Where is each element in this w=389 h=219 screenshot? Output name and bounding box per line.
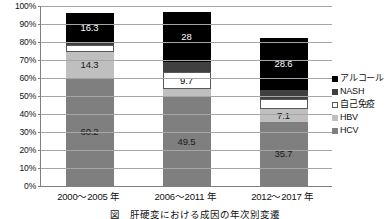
y-tick-label: 10% [20, 164, 36, 173]
legend-item[interactable]: NASH [332, 85, 389, 98]
gridline [41, 24, 332, 25]
bar-segment[interactable]: 14.3 [66, 52, 114, 78]
figure-caption: 図 肝硬変における成因の年次別変遷 [0, 209, 389, 219]
y-tick-mark [38, 150, 41, 151]
legend-label: 自己免疫 [340, 100, 375, 109]
x-axis-label: 2012〜2017 年 [228, 190, 338, 204]
legend-item[interactable]: HBV [332, 111, 389, 124]
chart-legend: アルコールNASH自己免疫HBVHCV [332, 72, 389, 137]
y-tick-mark [38, 24, 41, 25]
y-tick-label: 20% [20, 146, 36, 155]
legend-item[interactable]: 自己免疫 [332, 98, 389, 111]
legend-label: HBV [340, 113, 358, 122]
gridline [41, 78, 332, 79]
y-tick-label: 30% [20, 128, 36, 137]
legend-label: アルコール [340, 74, 384, 83]
plot-area: 60.214.33.61.516.349.54.39.75.42835.77.1… [40, 6, 331, 186]
gridline [41, 150, 332, 151]
y-tick-mark [38, 96, 41, 97]
bar-segment[interactable]: 5.4 [260, 90, 308, 100]
bar-segment[interactable]: 5.4 [163, 62, 211, 72]
legend-swatch-icon [332, 128, 338, 134]
y-tick-mark [38, 60, 41, 61]
x-axis-label: 2006〜2011 年 [131, 190, 241, 204]
y-tick-mark [38, 6, 41, 7]
bar-segment[interactable]: 49.5 [163, 97, 211, 186]
legend-swatch-icon [332, 102, 338, 108]
gridline [41, 60, 332, 61]
bar-value-label: 28 [181, 32, 191, 42]
y-tick-label: 40% [20, 110, 36, 119]
y-tick-label: 80% [20, 38, 36, 47]
x-axis-label: 2000〜2005 年 [34, 190, 144, 204]
bar-segment[interactable]: 28.6 [260, 38, 308, 89]
legend-item[interactable]: HCV [332, 124, 389, 137]
bar-value-label: 7.1 [277, 111, 290, 121]
y-tick-label: 50% [20, 92, 36, 101]
y-tick-mark [38, 132, 41, 133]
bar-segment[interactable]: 1.5 [66, 43, 114, 46]
stacked-bar-chart: 100%90%80%70%60%50%40%30%20%10%0% 60.214… [0, 0, 389, 219]
bar-segment[interactable]: 28 [163, 12, 211, 62]
gridline [41, 42, 332, 43]
gridline [41, 114, 332, 115]
legend-swatch-icon [332, 115, 338, 121]
y-tick-label: 100% [15, 2, 36, 11]
gridline [41, 96, 332, 97]
y-tick-mark [38, 114, 41, 115]
gridline [41, 6, 332, 7]
y-tick-mark [38, 78, 41, 79]
legend-label: HCV [340, 126, 358, 135]
bar-segment[interactable]: 3.6 [66, 45, 114, 51]
gridline [41, 186, 332, 187]
legend-label: NASH [340, 87, 364, 96]
gridline [41, 168, 332, 169]
bar-value-label: 14.3 [80, 60, 98, 70]
y-tick-mark [38, 42, 41, 43]
gridline [41, 132, 332, 133]
y-axis: 100%90%80%70%60%50%40%30%20%10%0% [0, 6, 40, 186]
bar-segment[interactable]: 9.7 [163, 72, 211, 89]
legend-swatch-icon [332, 76, 338, 82]
y-tick-mark [38, 168, 41, 169]
bar-segment[interactable]: 7.1 [260, 109, 308, 122]
legend-swatch-icon [332, 89, 338, 95]
y-tick-label: 0% [24, 182, 36, 191]
y-tick-label: 70% [20, 56, 36, 65]
bar-segment[interactable]: 16.3 [66, 13, 114, 42]
y-tick-label: 90% [20, 20, 36, 29]
legend-item[interactable]: アルコール [332, 72, 389, 85]
y-tick-mark [38, 186, 41, 187]
x-axis-labels: 2000〜2005 年2006〜2011 年2012〜2017 年 [40, 190, 331, 206]
bar-value-label: 49.5 [177, 137, 195, 147]
bar-segment[interactable]: 5.4 [260, 99, 308, 109]
y-tick-label: 60% [20, 74, 36, 83]
